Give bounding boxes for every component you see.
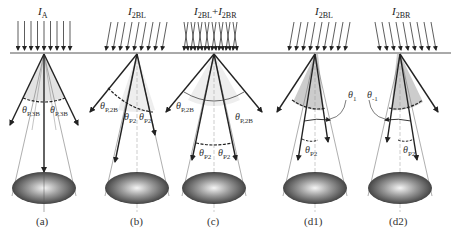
panel-d2 [368,22,438,212]
angle-label-a-left: θP,3B [22,105,40,118]
detector-ellipse-b [105,172,169,204]
angle-label-b-inner-right: θP2 [139,112,151,125]
angle-label-d1-tilt: θ1 [348,90,356,103]
caption-a: (a) [36,216,48,227]
caption-b: (b) [130,216,143,227]
detector-ellipse-c [182,172,246,204]
caption-d1: (d1) [304,216,322,227]
panel-d1 [277,22,350,212]
caption-c: (c) [207,216,219,227]
angle-label-b-outer: θP,2B [100,101,118,114]
angle-label-c-inner-left: θP2 [199,148,211,161]
angle-label-c-outer-right: θP,2B [235,112,253,125]
title-a: IA [38,6,47,20]
angle-label-c-outer-left: θP,2B [176,101,194,114]
title-b: I2BL [128,6,146,20]
angle-label-a-right: θP,3B [50,105,68,118]
angle-label-c-inner-right: θP2 [218,148,230,161]
title-d2: I2BR [392,6,410,20]
title-c: I2BL+I2BR [194,6,236,20]
angle-label-d2-tilt: θ-1 [367,90,378,103]
angle-label-b-inner-left: θP2 [124,112,136,125]
title-d1: I2BL [315,6,333,20]
angle-label-d2-inner: θP2 [403,145,415,158]
detector-ellipse-d2 [368,172,432,204]
caption-d2: (d2) [389,216,407,227]
detector-ellipse-d1 [283,172,347,204]
angle-label-d1-inner: θP2 [305,145,317,158]
